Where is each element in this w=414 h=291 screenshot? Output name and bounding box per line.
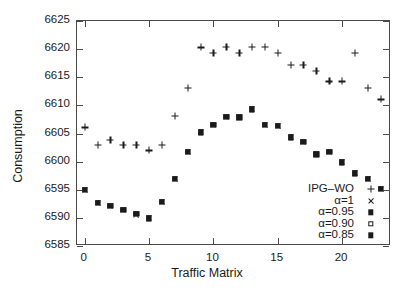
- y-tick-mark: [77, 246, 83, 247]
- y-tick-mark: [77, 105, 83, 106]
- x-tick-label: 5: [128, 252, 168, 264]
- data-point: [94, 141, 101, 148]
- y-axis-title-text: Consumption: [11, 109, 25, 183]
- data-point: [261, 43, 268, 50]
- data-point: [171, 113, 178, 120]
- scatter-chart-figure: Consumption 6585659065956600660566106615…: [0, 0, 414, 291]
- data-point: [236, 114, 241, 119]
- x-tick-label: 15: [257, 252, 297, 264]
- data-point: [364, 84, 371, 91]
- y-tick-label: 6585: [10, 239, 70, 251]
- data-point: [133, 211, 138, 216]
- x-tick-label: 20: [321, 252, 361, 264]
- data-point: [351, 170, 358, 177]
- data-point: [365, 176, 370, 181]
- data-point: [314, 152, 319, 157]
- y-tick-label: 6605: [10, 127, 70, 139]
- data-point: [133, 211, 138, 216]
- y-tick-mark: [383, 49, 389, 50]
- x-tick-mark: [213, 21, 214, 27]
- legend-label: α=0.85: [258, 229, 358, 241]
- legend-marker: [358, 218, 384, 230]
- data-point: [211, 122, 216, 127]
- data-point: [326, 149, 333, 156]
- data-point: [236, 114, 243, 121]
- legend-marker: [358, 206, 384, 218]
- data-point: [301, 139, 306, 144]
- y-tick-mark: [383, 134, 389, 135]
- data-point: [339, 159, 344, 164]
- y-tick-mark: [77, 134, 83, 135]
- x-tick-mark: [85, 21, 86, 27]
- legend-marker: [358, 195, 384, 207]
- x-tick-mark: [342, 21, 343, 27]
- y-tick-mark: [383, 21, 389, 22]
- data-point: [211, 122, 216, 127]
- data-point: [184, 149, 191, 156]
- y-tick-mark: [77, 218, 83, 219]
- data-point: [339, 159, 344, 164]
- data-point: [352, 171, 357, 176]
- data-point: [171, 175, 178, 182]
- data-point: [159, 199, 164, 204]
- data-point: [146, 147, 153, 154]
- data-point: [352, 171, 357, 176]
- legend-item: IPG–WO: [258, 183, 384, 195]
- x-tick-mark: [149, 21, 150, 27]
- data-point: [120, 207, 127, 214]
- y-tick-label: 6595: [10, 183, 70, 195]
- data-point: [365, 176, 370, 181]
- data-point: [351, 50, 358, 57]
- data-point: [327, 149, 332, 154]
- data-point: [224, 114, 229, 119]
- data-point: [275, 123, 280, 128]
- x-tick-label: 0: [64, 252, 104, 264]
- data-point: [120, 141, 127, 148]
- x-tick-mark: [85, 238, 86, 244]
- data-point: [159, 199, 164, 204]
- data-point: [352, 171, 357, 176]
- data-point: [121, 207, 126, 212]
- data-point: [365, 176, 370, 181]
- data-point: [121, 207, 126, 212]
- data-point: [95, 200, 100, 205]
- y-tick-mark: [77, 77, 83, 78]
- data-point: [313, 151, 320, 158]
- y-tick-label: 6625: [10, 14, 70, 26]
- data-point: [313, 67, 320, 74]
- y-tick-mark: [77, 162, 83, 163]
- y-tick-label: 6620: [10, 42, 70, 54]
- data-point: [95, 200, 100, 205]
- data-point: [288, 135, 293, 140]
- data-point: [249, 43, 256, 50]
- data-point: [107, 136, 114, 143]
- data-point: [274, 122, 281, 129]
- x-axis-title: Traffic Matrix: [0, 266, 414, 280]
- data-point: [107, 202, 114, 209]
- legend-label: α=0.95: [258, 206, 358, 218]
- data-point: [146, 216, 151, 221]
- data-point: [261, 121, 268, 128]
- data-point: [262, 122, 267, 127]
- y-tick-mark: [383, 246, 389, 247]
- data-point: [184, 84, 191, 91]
- data-point: [249, 107, 254, 112]
- data-point: [121, 207, 126, 212]
- data-point: [224, 114, 229, 119]
- data-point: [377, 96, 384, 103]
- data-point: [108, 203, 113, 208]
- data-point: [133, 211, 138, 216]
- data-point: [327, 149, 332, 154]
- y-tick-mark: [77, 21, 83, 22]
- data-point: [210, 121, 217, 128]
- data-point: [249, 106, 256, 113]
- data-point: [172, 176, 177, 181]
- y-tick-mark: [383, 162, 389, 163]
- data-point: [287, 134, 294, 141]
- data-point: [339, 78, 346, 85]
- data-point: [94, 200, 101, 207]
- y-tick-label: 6610: [10, 98, 70, 110]
- data-point: [211, 122, 216, 127]
- data-point: [262, 122, 267, 127]
- data-point: [339, 159, 346, 166]
